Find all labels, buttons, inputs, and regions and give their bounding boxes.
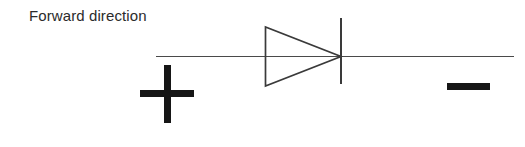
minus-sign-icon — [447, 83, 490, 90]
diode-forward-direction-figure: Forward direction — [0, 0, 525, 147]
plus-sign-icon — [140, 65, 194, 123]
diode-schematic — [0, 0, 525, 147]
